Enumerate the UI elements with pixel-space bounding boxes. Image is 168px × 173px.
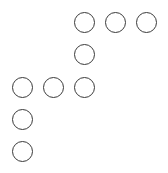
circle-r3-c3 — [74, 77, 95, 98]
circle-r1-c5 — [136, 12, 157, 33]
circle-r3-c2 — [43, 77, 64, 98]
circle-r1-c4 — [105, 12, 126, 33]
circle-diagram — [0, 0, 168, 173]
circle-r2-c3 — [74, 44, 95, 65]
circle-r5-c1 — [12, 141, 33, 162]
circle-r4-c1 — [12, 109, 33, 130]
circle-r1-c3 — [74, 12, 95, 33]
circle-r3-c1 — [12, 77, 33, 98]
